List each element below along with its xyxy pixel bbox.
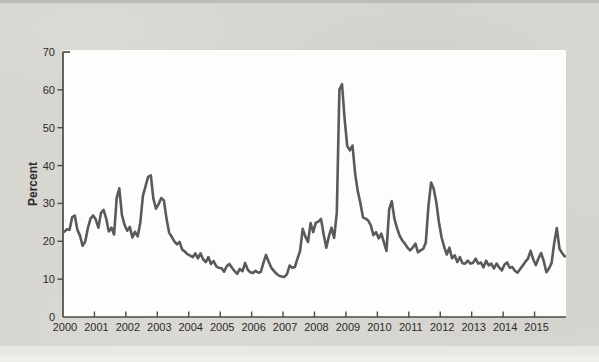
y-tick-label: 40: [43, 160, 55, 172]
x-tick-label: 2007: [273, 321, 297, 333]
x-tick-label: 2015: [524, 321, 548, 333]
x-tick-label: 2008: [304, 321, 328, 333]
y-tick-label: 20: [43, 235, 55, 247]
data-line-volatility-percent: [64, 84, 564, 277]
x-tick-label: 2010: [367, 321, 391, 333]
x-tick-label: 2004: [179, 321, 203, 333]
x-tick-label: 2012: [430, 321, 454, 333]
y-tick-label: 30: [43, 197, 55, 209]
x-tick-label: 2001: [84, 321, 108, 333]
volatility-line-chart: 0102030405060702000200120022003200420052…: [0, 0, 599, 362]
x-tick-label: 2009: [336, 321, 360, 333]
x-tick-label: 2013: [461, 321, 485, 333]
x-tick-label: 2002: [116, 321, 140, 333]
x-tick-label: 2003: [147, 321, 171, 333]
y-tick-label: 10: [43, 273, 55, 285]
x-tick-label: 2005: [210, 321, 234, 333]
x-tick-label: 2011: [399, 321, 423, 333]
y-tick-label: 50: [43, 122, 55, 134]
y-tick-label: 70: [43, 46, 55, 58]
x-tick-label: 2000: [53, 321, 77, 333]
x-tick-label: 2014: [493, 321, 517, 333]
y-tick-label: 60: [43, 84, 55, 96]
x-tick-label: 2006: [241, 321, 265, 333]
